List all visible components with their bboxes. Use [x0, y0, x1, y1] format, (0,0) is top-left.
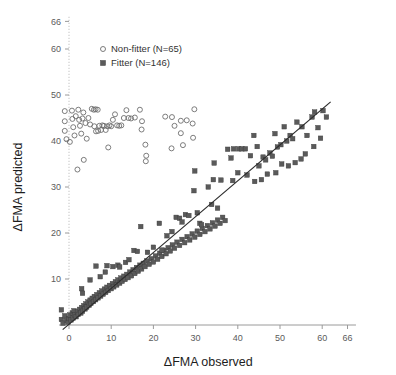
data-point-non-fitter — [140, 119, 145, 124]
data-point-non-fitter — [86, 116, 91, 121]
legend: Non-fitter (N=65)Fitter (N=146) — [100, 43, 182, 68]
data-point-non-fitter — [75, 167, 80, 172]
data-point-non-fitter — [62, 119, 67, 124]
data-point-non-fitter — [109, 124, 114, 129]
data-point-fitter — [59, 308, 64, 313]
data-point-fitter — [155, 257, 160, 262]
data-point-fitter — [138, 224, 143, 229]
data-point-non-fitter — [106, 145, 111, 150]
data-point-fitter — [168, 249, 173, 254]
data-point-fitter — [286, 164, 291, 169]
data-point-fitter — [192, 169, 197, 174]
data-point-fitter — [218, 221, 223, 226]
legend-marker-open-circle-icon — [101, 47, 106, 52]
data-point-non-fitter — [112, 112, 117, 117]
x-tick-label: 0 — [66, 333, 71, 343]
data-point-fitter — [177, 243, 182, 248]
data-point-fitter — [212, 161, 217, 166]
data-point-non-fitter — [67, 139, 72, 144]
data-point-non-fitter — [62, 109, 67, 114]
data-point-non-fitter — [71, 125, 76, 130]
data-point-fitter — [211, 177, 216, 182]
y-axis-title: ΔFMA predicted — [11, 142, 25, 231]
data-point-fitter — [213, 224, 218, 229]
data-point-non-fitter — [72, 133, 77, 138]
data-point-fitter — [270, 154, 275, 159]
data-point-fitter — [316, 125, 321, 130]
x-axis-title: ΔFMA observed — [164, 355, 253, 369]
y-axis: 10203040506066 ΔFMA predicted — [11, 17, 69, 325]
data-point-non-fitter — [124, 108, 129, 113]
data-point-non-fitter — [139, 127, 144, 132]
data-point-fitter — [192, 188, 197, 193]
data-point-fitter — [243, 147, 248, 152]
data-point-fitter — [324, 115, 329, 120]
y-tick-label: 60 — [51, 44, 61, 54]
data-point-fitter — [273, 131, 278, 136]
y-tick-label: 66 — [51, 17, 61, 27]
series-non-fitter — [62, 106, 197, 172]
data-point-fitter — [117, 265, 122, 270]
x-axis: 010203040506066 ΔFMA observed — [59, 325, 356, 369]
data-point-fitter — [182, 240, 187, 245]
data-point-fitter — [299, 157, 304, 162]
data-point-non-fitter — [70, 116, 75, 121]
x-tick-label: 60 — [317, 333, 327, 343]
data-point-fitter — [265, 172, 270, 177]
data-point-non-fitter — [178, 131, 183, 136]
series-fitter — [59, 108, 329, 325]
data-point-non-fitter — [190, 121, 195, 126]
data-point-non-fitter — [77, 123, 82, 128]
data-point-fitter — [273, 170, 278, 175]
data-point-fitter — [290, 136, 295, 141]
y-tick-label: 10 — [51, 274, 61, 284]
data-point-fitter — [151, 245, 156, 250]
data-point-fitter — [303, 152, 308, 157]
data-point-fitter — [180, 220, 185, 225]
data-point-non-fitter — [180, 143, 185, 148]
data-point-fitter — [160, 254, 165, 259]
data-point-fitter — [252, 133, 257, 138]
data-point-fitter — [255, 144, 260, 149]
data-point-fitter — [259, 177, 264, 182]
data-point-non-fitter — [81, 157, 86, 162]
data-point-non-fitter — [191, 135, 196, 140]
data-point-fitter — [79, 286, 84, 291]
data-point-fitter — [187, 213, 192, 218]
x-tick-label: 40 — [233, 333, 243, 343]
y-tick-label: 40 — [51, 136, 61, 146]
data-point-non-fitter — [110, 117, 115, 122]
data-point-non-fitter — [137, 107, 142, 112]
data-point-fitter — [187, 238, 192, 243]
data-point-non-fitter — [69, 108, 74, 113]
data-point-non-fitter — [81, 110, 86, 115]
data-point-non-fitter — [143, 159, 148, 164]
data-point-fitter — [229, 156, 234, 161]
data-point-fitter — [225, 147, 230, 152]
data-point-fitter — [147, 262, 152, 267]
data-point-non-fitter — [184, 118, 189, 123]
data-point-fitter — [199, 222, 204, 227]
data-point-fitter — [203, 229, 208, 234]
x-axis-ticks: 010203040506066 — [66, 325, 352, 343]
x-tick-label: 66 — [343, 333, 353, 343]
data-point-non-fitter — [92, 124, 97, 129]
data-point-fitter — [282, 124, 287, 129]
data-point-fitter — [135, 249, 140, 254]
data-point-fitter — [160, 248, 165, 253]
data-point-fitter — [80, 291, 85, 296]
scatter-plot-figure: 10203040506066 ΔFMA predicted 0102030405… — [0, 0, 396, 375]
legend-marker-filled-square-icon — [100, 60, 105, 65]
data-point-fitter — [164, 251, 169, 256]
data-point-non-fitter — [178, 118, 183, 123]
legend-item-non-fitter: Non-fitter (N=65) — [101, 43, 183, 54]
data-point-fitter — [230, 178, 235, 183]
data-point-fitter — [198, 232, 203, 237]
data-point-fitter — [103, 270, 108, 275]
x-tick-label: 20 — [148, 333, 158, 343]
data-point-fitter — [127, 257, 132, 262]
data-point-fitter — [62, 314, 67, 319]
data-point-fitter — [215, 206, 220, 211]
data-point-fitter — [231, 147, 236, 152]
data-point-non-fitter — [79, 131, 84, 136]
